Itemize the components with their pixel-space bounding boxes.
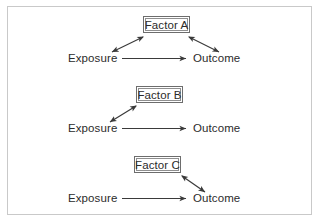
- figure-container: Factor A Exposure Outcome Factor B Expos…: [0, 0, 319, 222]
- factor-box-a-inner: Factor A: [145, 18, 188, 31]
- outcome-label-a: Outcome: [193, 52, 240, 65]
- factor-box-c-inner: Factor C: [136, 158, 179, 171]
- factor-box-a[interactable]: Factor A: [143, 16, 190, 33]
- factor-box-b[interactable]: Factor B: [136, 86, 183, 103]
- factor-c-label: Factor C: [135, 159, 180, 171]
- factor-b-label: Factor B: [137, 89, 181, 101]
- exposure-label-b: Exposure: [68, 122, 117, 135]
- exposure-label-a: Exposure: [68, 52, 117, 65]
- factor-box-b-inner: Factor B: [138, 88, 181, 101]
- figure-frame-border: [7, 6, 312, 215]
- factor-a-label: Factor A: [145, 19, 189, 31]
- factor-box-c[interactable]: Factor C: [134, 156, 181, 173]
- exposure-label-c: Exposure: [68, 192, 117, 205]
- outcome-label-b: Outcome: [193, 122, 240, 135]
- outcome-label-c: Outcome: [193, 192, 240, 205]
